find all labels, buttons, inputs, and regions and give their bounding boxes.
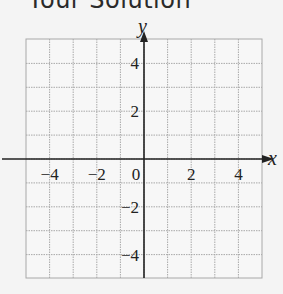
x-axis-label: x [267,147,277,169]
x-tick-label: −4 [41,165,60,184]
y-axis-label: y [136,15,147,38]
y-tick-label: −4 [121,246,140,265]
x-tick-label: −2 [88,165,106,184]
y-tick-label: 2 [131,102,140,121]
y-tick-label: −2 [121,198,139,217]
x-tick-label: 4 [234,165,243,184]
y-tick-label: 4 [131,54,140,73]
coordinate-grid-chart: xy −4−202442−2−4 [0,0,283,294]
x-tick-label: 0 [132,165,141,184]
x-tick-label: 2 [187,165,196,184]
